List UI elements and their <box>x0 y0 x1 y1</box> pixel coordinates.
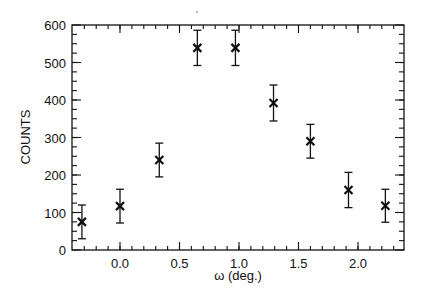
y-tick-label: 0 <box>59 243 66 258</box>
data-point <box>193 30 201 65</box>
x-tick-label: 0.5 <box>170 256 188 271</box>
y-tick-label: 100 <box>44 206 66 221</box>
y-tick-label: 400 <box>44 93 66 108</box>
x-tick-label: 0.0 <box>111 256 129 271</box>
scatter-chart: 0100200300400500600 0.00.51.01.52.0 ω (d… <box>0 0 425 298</box>
x-tick-label: 1.5 <box>289 256 307 271</box>
y-tick-label: 200 <box>44 168 66 183</box>
y-tick-label: 600 <box>44 18 66 33</box>
data-point <box>231 30 239 65</box>
data-point <box>306 124 314 158</box>
x-tick-label: 2.0 <box>349 256 367 271</box>
major-ticks <box>72 25 404 250</box>
y-tick-label: 500 <box>44 56 66 71</box>
data-point <box>78 205 86 239</box>
y-axis-title: COUNTS <box>18 109 33 164</box>
y-axis-tick-labels: 0100200300400500600 <box>44 18 66 258</box>
minor-ticks <box>72 25 404 250</box>
data-point <box>381 189 389 222</box>
data-point <box>155 143 163 177</box>
data-points <box>78 30 389 239</box>
stray-dot <box>196 11 197 12</box>
data-point <box>270 85 278 121</box>
plot-frame <box>72 25 404 250</box>
data-point <box>344 172 352 207</box>
y-tick-label: 300 <box>44 131 66 146</box>
data-point <box>116 189 124 223</box>
x-axis-title: ω (deg.) <box>214 268 262 283</box>
